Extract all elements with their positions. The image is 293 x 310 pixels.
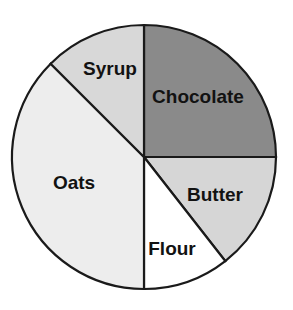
pie-chart-svg: ChocolateButterFlourOatsSyrup — [0, 0, 293, 310]
pie-slice-label-flour: Flour — [148, 238, 196, 259]
pie-slices-group — [12, 25, 276, 289]
pie-chart-figure: ChocolateButterFlourOatsSyrup — [0, 0, 293, 310]
pie-slice-label-oats: Oats — [53, 172, 95, 193]
pie-slice-label-syrup: Syrup — [83, 58, 137, 79]
pie-slice-label-butter: Butter — [187, 184, 244, 205]
pie-slice-label-chocolate: Chocolate — [152, 86, 244, 107]
